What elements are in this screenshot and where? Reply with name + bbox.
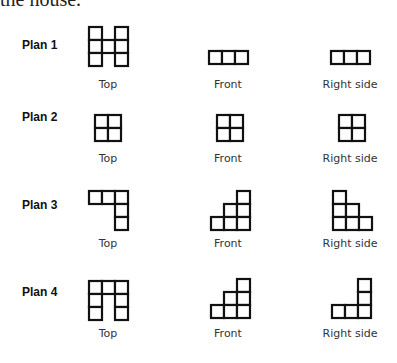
cube-cell <box>358 292 371 305</box>
cube-cell <box>89 281 102 294</box>
cube-cell <box>102 281 115 294</box>
plan-label: Plan 1 <box>22 38 57 52</box>
view-label: Front <box>183 78 273 91</box>
plan-4-right-view-grid <box>331 278 374 321</box>
cube-cell <box>209 51 222 64</box>
cube-cell <box>357 51 370 64</box>
view-label: Right side <box>305 78 395 91</box>
cube-cell <box>339 115 352 128</box>
view-label: Right side <box>305 327 395 340</box>
cube-cell <box>89 191 102 204</box>
cube-cell <box>224 217 237 230</box>
cube-cell <box>108 128 121 141</box>
cube-cell <box>358 305 371 318</box>
cube-cell <box>115 204 128 217</box>
plan-2-top-view-grid <box>94 114 137 157</box>
intro-text: the house. <box>0 0 81 11</box>
cube-cell <box>211 217 224 230</box>
view-label: Top <box>63 152 153 165</box>
cube-cell <box>222 51 235 64</box>
view-label: Top <box>63 237 153 250</box>
cube-cell <box>102 191 115 204</box>
cube-cell <box>89 307 102 320</box>
view-label: Front <box>183 237 273 250</box>
view-label: Top <box>63 327 153 340</box>
cube-cell <box>339 128 352 141</box>
cube-cell <box>333 191 346 204</box>
view-label: Top <box>63 78 153 91</box>
cube-cell <box>359 217 372 230</box>
cube-cell <box>217 115 230 128</box>
view-label: Right side <box>305 237 395 250</box>
plan-1-top-view-grid <box>88 26 131 69</box>
plan-4-front-view-grid <box>210 278 253 321</box>
cube-cell <box>115 294 128 307</box>
cube-cell <box>230 115 243 128</box>
cube-cell <box>344 51 357 64</box>
cube-cell <box>352 115 365 128</box>
cube-cell <box>230 128 243 141</box>
cube-cell <box>333 217 346 230</box>
cube-cell <box>352 128 365 141</box>
view-label: Front <box>183 327 273 340</box>
plan-3-top-view-grid <box>88 190 131 233</box>
cube-cell <box>211 305 224 318</box>
cube-cell <box>108 115 121 128</box>
cube-cell <box>332 305 345 318</box>
cube-cell <box>224 305 237 318</box>
cube-cell <box>95 115 108 128</box>
plan-label: Plan 3 <box>22 198 57 212</box>
cube-cell <box>331 51 344 64</box>
plan-3-front-view-grid <box>210 190 253 233</box>
cube-cell <box>95 128 108 141</box>
cube-cell <box>237 305 250 318</box>
cube-cell <box>224 204 237 217</box>
cube-cell <box>115 53 128 66</box>
cube-cell <box>224 292 237 305</box>
cube-cell <box>115 40 128 53</box>
cube-cell <box>346 217 359 230</box>
view-label: Front <box>183 152 273 165</box>
cube-cell <box>89 40 102 53</box>
cube-cell <box>89 53 102 66</box>
cube-cell <box>358 279 371 292</box>
plan-4-top-view-grid <box>88 280 131 323</box>
cube-cell <box>237 191 250 204</box>
plan-2-right-view-grid <box>338 114 381 157</box>
cube-cell <box>115 281 128 294</box>
cube-cell <box>217 128 230 141</box>
cube-cell <box>237 279 250 292</box>
cube-cell <box>115 217 128 230</box>
cube-cell <box>345 305 358 318</box>
cube-cell <box>89 294 102 307</box>
cube-cell <box>115 191 128 204</box>
cube-cell <box>115 27 128 40</box>
plan-2-front-view-grid <box>216 114 259 157</box>
cube-cell <box>235 51 248 64</box>
cube-cell <box>237 292 250 305</box>
cube-cell <box>115 307 128 320</box>
cube-cell <box>346 204 359 217</box>
plan-3-right-view-grid <box>332 190 375 233</box>
cube-cell <box>89 27 102 40</box>
cube-cell <box>333 204 346 217</box>
plan-label: Plan 4 <box>22 285 57 299</box>
view-label: Right side <box>305 152 395 165</box>
cube-cell <box>102 40 115 53</box>
cube-cell <box>237 217 250 230</box>
cube-cell <box>237 204 250 217</box>
plan-label: Plan 2 <box>22 110 57 124</box>
